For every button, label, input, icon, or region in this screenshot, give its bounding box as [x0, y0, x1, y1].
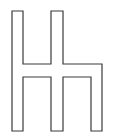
glyph-figure	[0, 0, 114, 139]
glyph-outline	[12, 11, 102, 131]
